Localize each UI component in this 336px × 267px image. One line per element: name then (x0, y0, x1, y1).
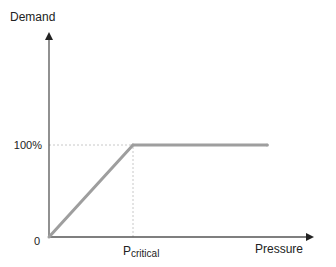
y-axis-label: Demand (10, 10, 55, 24)
x-marker-label: Pcritical (123, 244, 159, 259)
demand-curve-point-1 (132, 144, 135, 147)
y-level-label: 100% (14, 139, 42, 151)
x-marker-label-subscript: critical (131, 248, 159, 259)
demand-pressure-diagram: Demand 100% 0 Pcritical Pressure (0, 0, 336, 267)
x-axis-label: Pressure (255, 242, 303, 256)
demand-curve-points (48, 144, 269, 239)
origin-label: 0 (34, 235, 40, 247)
demand-curve-point-0 (48, 236, 51, 239)
x-marker-label-main: P (123, 244, 131, 258)
demand-curve-point-2 (266, 144, 269, 147)
demand-curve-line (49, 145, 267, 237)
